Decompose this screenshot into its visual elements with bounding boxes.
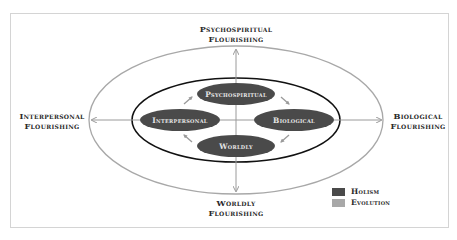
label-line: Biological xyxy=(385,111,451,121)
label-line: Psychospiritual xyxy=(186,24,286,34)
node-biological: Biological xyxy=(254,109,334,131)
label-line: Flourishing xyxy=(385,121,451,131)
node-label: Worldly xyxy=(218,142,253,151)
legend-item-evolution: Evolution xyxy=(332,198,390,207)
label-psychospiritual-flourishing: Psychospiritual Flourishing xyxy=(186,24,286,44)
legend-item-holism: Holism xyxy=(332,187,379,196)
label-line: Flourishing xyxy=(16,121,88,131)
cycle-arrow-biological-to-worldly xyxy=(281,135,289,142)
legend-label: Evolution xyxy=(351,198,390,207)
legend-label: Holism xyxy=(351,187,379,196)
node-label: Interpersonal xyxy=(152,116,207,125)
label-line: Flourishing xyxy=(186,208,286,218)
label-line: Flourishing xyxy=(186,34,286,44)
label-worldly-flourishing: Worldly Flourishing xyxy=(186,198,286,218)
legend-swatch-holism xyxy=(332,188,345,196)
cycle-arrow-worldly-to-interpersonal xyxy=(184,135,192,142)
node-label: Biological xyxy=(273,116,315,125)
legend-swatch-evolution xyxy=(332,199,345,207)
cycle-arrow-psychospiritual-to-biological xyxy=(281,97,289,104)
node-label: Psychospiritual xyxy=(205,90,267,99)
label-line: Interpersonal xyxy=(16,111,88,121)
node-interpersonal: Interpersonal xyxy=(140,109,220,131)
label-interpersonal-flourishing: Interpersonal Flourishing xyxy=(16,111,88,131)
node-worldly: Worldly xyxy=(197,135,275,157)
label-line: Worldly xyxy=(186,198,286,208)
label-biological-flourishing: Biological Flourishing xyxy=(385,111,451,131)
node-psychospiritual: Psychospiritual xyxy=(197,83,275,105)
cycle-arrow-interpersonal-to-psychospiritual xyxy=(184,97,192,104)
